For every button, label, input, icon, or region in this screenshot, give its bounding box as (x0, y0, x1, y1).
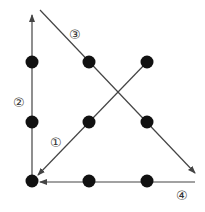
dot (83, 56, 96, 69)
step-3-label: ③ (69, 27, 81, 42)
step-4-label: ④ (176, 188, 188, 203)
step-2-label: ② (13, 95, 25, 110)
stroke-lines (32, 10, 195, 182)
dot (26, 56, 39, 69)
dot (141, 56, 154, 69)
dot (26, 116, 39, 129)
dot (83, 116, 96, 129)
dot (26, 175, 39, 188)
dot (141, 116, 154, 129)
dot (141, 175, 154, 188)
step-1-label: ① (50, 135, 62, 150)
dot (83, 175, 96, 188)
nine-dot-diagram: ① ② ③ ④ (0, 0, 205, 212)
